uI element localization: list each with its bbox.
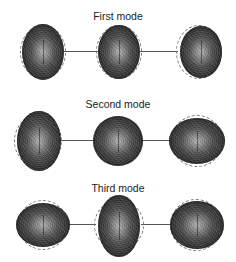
row-title-third-mode: Third mode xyxy=(0,182,236,194)
brain-shape-mode3-mean xyxy=(98,195,140,257)
brain-shape-mode1-negative xyxy=(22,24,64,80)
row-title-second-mode: Second mode xyxy=(0,98,236,110)
connector-line xyxy=(68,224,96,225)
brain-shape-mode3-positive xyxy=(170,201,224,249)
brain-shape-mode1-positive xyxy=(180,26,222,78)
brain-shape-mode3-negative xyxy=(16,203,70,247)
brain-shape-mode2-mean xyxy=(93,116,143,166)
brain-shape-mode2-positive xyxy=(169,118,225,164)
connector-line xyxy=(140,51,178,52)
brain-shape-mode2-negative xyxy=(17,111,61,171)
row-title-first-mode: First mode xyxy=(0,10,236,22)
connector-line xyxy=(64,51,98,52)
connector-line xyxy=(60,140,96,141)
brain-shape-mode1-mean xyxy=(98,25,140,79)
connector-line xyxy=(141,224,173,225)
connector-line xyxy=(142,140,172,141)
